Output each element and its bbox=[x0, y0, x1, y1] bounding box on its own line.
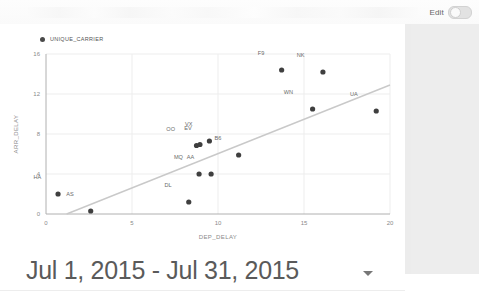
data-point[interactable] bbox=[207, 138, 212, 143]
y-tick-label: 8 bbox=[37, 131, 41, 137]
data-point[interactable] bbox=[196, 171, 201, 176]
data-point-label: F9 bbox=[258, 50, 265, 56]
data-point-label: WN bbox=[284, 89, 293, 95]
app-window: Edit UNIQUE_CARRIER 051015200481216 HAAS… bbox=[0, 0, 479, 297]
data-point-label: NK bbox=[297, 52, 305, 58]
x-tick-label: 15 bbox=[301, 220, 308, 226]
edit-mode-control[interactable]: Edit bbox=[429, 4, 472, 20]
data-point[interactable] bbox=[236, 152, 241, 157]
grid-lines bbox=[46, 54, 390, 214]
edit-toggle-switch[interactable] bbox=[448, 6, 472, 19]
footer-divider bbox=[0, 290, 405, 291]
top-toolbar: Edit bbox=[0, 0, 479, 25]
right-side-panel bbox=[404, 24, 479, 274]
data-point[interactable] bbox=[88, 208, 93, 213]
toggle-knob bbox=[450, 7, 461, 18]
data-point-label: AA bbox=[187, 154, 195, 160]
y-tick-label: 16 bbox=[33, 51, 40, 57]
x-tick-label: 10 bbox=[215, 220, 222, 226]
toolbar-faded-controls[interactable] bbox=[28, 7, 418, 18]
data-point[interactable] bbox=[55, 191, 60, 196]
data-point[interactable] bbox=[197, 142, 202, 147]
x-tick-label: 5 bbox=[130, 220, 134, 226]
data-point-label: VX bbox=[185, 121, 193, 127]
x-tick-label: 20 bbox=[387, 220, 394, 226]
y-tick-label: 12 bbox=[33, 91, 40, 97]
plot-area[interactable]: 051015200481216 HAASDLMQAAOOEVVXB6F9WNNK… bbox=[0, 24, 405, 250]
data-point-label: OO bbox=[166, 126, 175, 132]
data-point[interactable] bbox=[310, 106, 315, 111]
data-point-label: AS bbox=[66, 191, 74, 197]
trend-line bbox=[67, 85, 390, 214]
data-point[interactable] bbox=[209, 171, 214, 176]
date-range-label: Jul 1, 2015 - Jul 31, 2015 bbox=[26, 256, 299, 285]
data-point-label: HA bbox=[34, 174, 42, 180]
data-point-label: B6 bbox=[215, 135, 222, 141]
data-point[interactable] bbox=[320, 69, 325, 74]
data-point-label: MQ bbox=[174, 154, 184, 160]
x-tick-label: 0 bbox=[44, 220, 48, 226]
y-tick-label: 0 bbox=[37, 211, 41, 217]
data-point[interactable] bbox=[186, 199, 191, 204]
date-range-selector[interactable]: Jul 1, 2015 - Jul 31, 2015 bbox=[0, 250, 405, 297]
data-point[interactable] bbox=[279, 67, 284, 72]
edit-label: Edit bbox=[429, 8, 444, 17]
chevron-down-icon[interactable] bbox=[363, 271, 373, 276]
data-points: HAASDLMQAAOOEVVXB6F9WNNKUA bbox=[34, 50, 379, 214]
y-axis-title: ARR_DELAY bbox=[13, 115, 19, 154]
data-point-label: UA bbox=[350, 91, 358, 97]
x-axis-title: DEP_DELAY bbox=[199, 234, 238, 240]
data-point-label: DL bbox=[165, 182, 172, 188]
scatter-chart[interactable]: UNIQUE_CARRIER 051015200481216 HAASDLMQA… bbox=[0, 24, 405, 250]
side-panel-body bbox=[411, 24, 479, 274]
data-point[interactable] bbox=[374, 108, 379, 113]
